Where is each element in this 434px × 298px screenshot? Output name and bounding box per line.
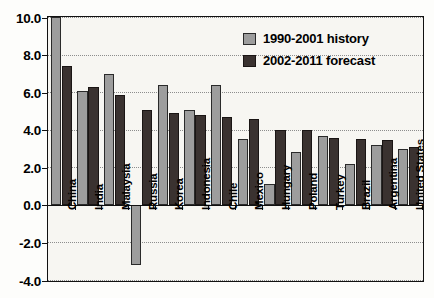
bar bbox=[291, 152, 301, 205]
bar bbox=[211, 85, 221, 205]
bar bbox=[345, 164, 355, 204]
y-axis-tick-label: 0.0 bbox=[0, 198, 41, 213]
y-axis-tick-label: 10.0 bbox=[0, 10, 41, 25]
bar bbox=[238, 139, 248, 205]
bar bbox=[371, 145, 381, 205]
bar bbox=[382, 140, 392, 205]
y-axis-tick-label: 4.0 bbox=[0, 123, 41, 138]
bar bbox=[131, 205, 141, 265]
legend: 1990-2001 history 2002-2011 forecast bbox=[243, 31, 375, 68]
bar bbox=[195, 115, 205, 205]
bar bbox=[356, 139, 366, 205]
bar bbox=[318, 136, 328, 205]
bar bbox=[249, 119, 259, 204]
bar bbox=[398, 149, 408, 205]
legend-label-forecast: 2002-2011 forecast bbox=[263, 53, 375, 68]
bar bbox=[329, 138, 339, 205]
legend-label-history: 1990-2001 history bbox=[263, 31, 369, 46]
bar bbox=[169, 113, 179, 205]
y-axis-tick-label: -2.0 bbox=[0, 235, 41, 250]
bar bbox=[222, 117, 232, 205]
bar bbox=[104, 74, 114, 205]
bar bbox=[77, 91, 87, 205]
bar bbox=[115, 95, 125, 205]
bar bbox=[142, 110, 152, 205]
bar bbox=[51, 17, 61, 205]
bar bbox=[62, 66, 72, 205]
bar bbox=[409, 147, 419, 205]
legend-item-history: 1990-2001 history bbox=[243, 31, 375, 46]
bar bbox=[158, 85, 168, 205]
bar-chart: 10.08.06.04.02.00.0-2.0-4.0 ChinaIndiaMa… bbox=[0, 0, 434, 298]
history-swatch-icon bbox=[243, 33, 256, 45]
bar bbox=[302, 130, 312, 205]
bar bbox=[88, 87, 98, 205]
y-axis-tick-label: 8.0 bbox=[0, 48, 41, 63]
forecast-swatch-icon bbox=[243, 55, 256, 67]
bar bbox=[184, 110, 194, 205]
y-axis-tick-label: -4.0 bbox=[0, 273, 41, 288]
axis-zero-line bbox=[48, 205, 423, 206]
bar bbox=[264, 184, 274, 205]
y-axis-tick-label: 6.0 bbox=[0, 85, 41, 100]
y-axis-tick-label: 2.0 bbox=[0, 160, 41, 175]
bar bbox=[275, 130, 285, 205]
legend-item-forecast: 2002-2011 forecast bbox=[243, 53, 375, 68]
